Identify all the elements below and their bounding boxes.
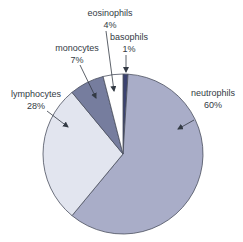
monocytes-value: 7%: [70, 55, 83, 65]
pie-chart: eosinophils 4% basophils 1% monocytes 7%…: [0, 0, 243, 242]
monocytes-label: monocytes: [55, 43, 99, 53]
eosinophils-value: 4%: [103, 20, 116, 30]
pie-slices: [43, 74, 203, 234]
eosinophils-label: eosinophils: [87, 8, 133, 18]
basophils-label: basophils: [110, 32, 149, 42]
neutrophils-label: neutrophils: [191, 88, 236, 98]
neutrophils-value: 60%: [204, 100, 222, 110]
lymphocytes-label: lymphocytes: [11, 89, 62, 99]
basophils-value: 1%: [122, 44, 135, 54]
lymphocytes-value: 28%: [27, 101, 45, 111]
